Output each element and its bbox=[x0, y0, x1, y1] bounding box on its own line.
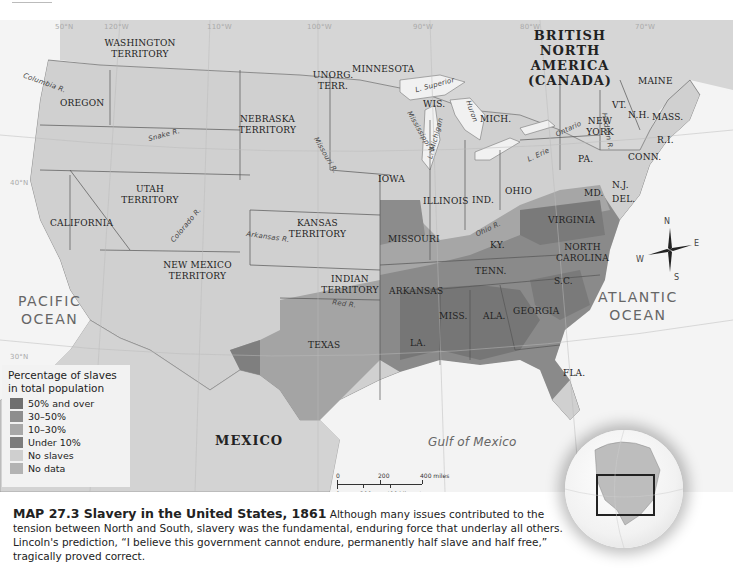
label-utah: UTAH TERRITORY bbox=[115, 184, 185, 206]
locator-globe bbox=[565, 430, 683, 548]
label-oregon: OREGON bbox=[60, 98, 104, 109]
grid-label: 110°W bbox=[207, 22, 232, 33]
label-fla: FLA. bbox=[563, 368, 585, 379]
legend-label: No data bbox=[28, 463, 65, 474]
grid-label: 100°W bbox=[307, 22, 332, 33]
label-pa: PA. bbox=[578, 154, 593, 165]
label-pacific-ocean: PACIFIC OCEAN bbox=[18, 292, 81, 328]
label-minnesota: MINNESOTA bbox=[352, 64, 414, 75]
legend-item: 10–30% bbox=[8, 423, 124, 436]
grid-label: 90°W bbox=[413, 22, 433, 33]
label-mass: MASS. bbox=[652, 112, 683, 123]
label-nj: N.J. bbox=[612, 180, 629, 191]
label-mexico: MEXICO bbox=[215, 433, 283, 448]
legend-label: 10–30% bbox=[28, 424, 66, 435]
label-nh: N.H. bbox=[628, 110, 650, 121]
legend-item: 50% and over bbox=[8, 397, 124, 410]
label-indian: INDIAN TERRITORY bbox=[315, 274, 385, 296]
label-washington: WASHINGTON TERRITORY bbox=[100, 38, 180, 60]
label-miss: MISS. bbox=[439, 311, 467, 322]
label-mich: MICH. bbox=[480, 114, 511, 125]
label-iowa: IOWA bbox=[378, 174, 405, 185]
map-legend: Percentage of slaves in total population… bbox=[2, 365, 130, 487]
scale-km-400: 400 kilometers bbox=[386, 490, 431, 492]
compass-n: N bbox=[664, 216, 670, 227]
legend-swatch bbox=[10, 437, 23, 448]
label-virginia: VIRGINIA bbox=[548, 215, 595, 226]
globe-icon bbox=[565, 430, 683, 548]
label-ala: ALA. bbox=[483, 311, 506, 322]
scale-km-200: 200 bbox=[360, 490, 371, 492]
legend-swatch bbox=[10, 450, 23, 461]
compass-rose: N S E W bbox=[640, 220, 700, 280]
legend-swatch bbox=[10, 411, 23, 422]
label-new-mexico: NEW MEXICO TERRITORY bbox=[160, 260, 235, 282]
legend-label: No slaves bbox=[28, 450, 74, 461]
label-missouri: MISSOURI bbox=[388, 234, 440, 245]
label-british-north-america: BRITISH NORTH AMERICA (CANADA) bbox=[505, 28, 635, 88]
label-california: CALIFORNIA bbox=[50, 218, 113, 229]
label-ky: KY. bbox=[490, 240, 505, 251]
compass-e: E bbox=[694, 238, 699, 249]
grid-label: 30°N bbox=[10, 352, 28, 363]
legend-title: Percentage of slaves in total population bbox=[8, 369, 124, 395]
grid-label: 70°W bbox=[635, 22, 655, 33]
label-ind: IND. bbox=[472, 195, 494, 206]
legend-item: No data bbox=[8, 462, 124, 475]
label-atlantic-ocean: ATLANTIC OCEAN bbox=[598, 288, 678, 324]
map-caption: MAP 27.3 Slavery in the United States, 1… bbox=[13, 507, 573, 563]
legend-label: 30–50% bbox=[28, 411, 66, 422]
legend-item: No slaves bbox=[8, 449, 124, 462]
compass-w: W bbox=[636, 254, 644, 265]
label-del: DEL. bbox=[612, 194, 635, 205]
grid-label: 50°N bbox=[55, 22, 73, 33]
label-md: MD. bbox=[584, 188, 604, 199]
label-ri: R.I. bbox=[657, 135, 674, 146]
label-gulf-of-mexico: Gulf of Mexico bbox=[428, 437, 517, 448]
label-sc: S.C. bbox=[554, 276, 573, 287]
label-kansas: KANSAS TERRITORY bbox=[280, 218, 355, 240]
label-illinois: ILLINOIS bbox=[423, 196, 469, 207]
label-nebraska: NEBRASKA TERRITORY bbox=[230, 114, 305, 136]
scale-miles-200: 200 bbox=[378, 472, 389, 479]
scale-miles-0: 0 bbox=[336, 472, 340, 479]
compass-s: S bbox=[674, 272, 679, 283]
label-nc: NORTH CAROLINA bbox=[550, 242, 615, 264]
label-wis: WIS. bbox=[423, 99, 445, 110]
caption-title: MAP 27.3 Slavery in the United States, 1… bbox=[13, 506, 326, 521]
legend-swatch bbox=[10, 424, 23, 435]
label-maine: MAINE bbox=[638, 76, 673, 87]
page-rule bbox=[12, 2, 52, 3]
label-georgia: GEORGIA bbox=[513, 306, 560, 317]
grid-label: 120°W bbox=[104, 22, 129, 33]
legend-swatch bbox=[10, 463, 23, 474]
label-vt: VT. bbox=[612, 100, 627, 111]
label-unorg-terr: UNORG. TERR. bbox=[308, 70, 358, 92]
grid-label: 40°N bbox=[10, 178, 28, 189]
label-la: LA. bbox=[410, 338, 426, 349]
scale-miles-400: 400 miles bbox=[420, 472, 449, 479]
label-arkansas: ARKANSAS bbox=[389, 286, 443, 297]
legend-label: 50% and over bbox=[28, 398, 94, 409]
label-tenn: TENN. bbox=[475, 266, 507, 277]
scale-bar: 0 200 400 miles 0 200 400 kilometers bbox=[336, 472, 456, 492]
legend-item: Under 10% bbox=[8, 436, 124, 449]
scale-km-0: 0 bbox=[336, 490, 340, 492]
label-texas: TEXAS bbox=[308, 340, 340, 351]
label-ohio: OHIO bbox=[505, 186, 532, 197]
legend-item: 30–50% bbox=[8, 410, 124, 423]
label-conn: CONN. bbox=[628, 152, 661, 163]
compass-rose-icon bbox=[640, 220, 700, 280]
legend-label: Under 10% bbox=[28, 437, 81, 448]
legend-swatch bbox=[10, 398, 23, 409]
